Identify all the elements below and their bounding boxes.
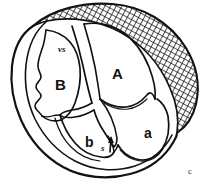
anatomical-figure-panel: A B a b vs s c: [0, 0, 205, 186]
label-ventricular-septum: vs: [58, 45, 66, 54]
label-structure-s: s: [101, 144, 105, 153]
label-panel-c: c: [188, 167, 192, 176]
label-chamber-A: A: [112, 66, 123, 81]
label-chamber-B: B: [55, 77, 66, 92]
anatomical-line-drawing: [0, 0, 205, 186]
drawing-strokes: [0, 0, 205, 186]
chamber-B-wall: [35, 30, 46, 116]
ventricular-septum: [72, 26, 92, 103]
label-chamber-a: a: [144, 126, 152, 140]
valve-structure-left-leaflet: [60, 103, 94, 117]
label-chamber-b: b: [85, 135, 94, 149]
lower-left-notch: [42, 115, 60, 117]
ventricular-septum-second-edge: [84, 24, 100, 99]
